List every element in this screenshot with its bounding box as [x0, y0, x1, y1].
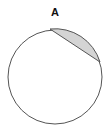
circle-segment-diagram: A	[0, 0, 111, 134]
point-label-a: A	[51, 6, 59, 18]
